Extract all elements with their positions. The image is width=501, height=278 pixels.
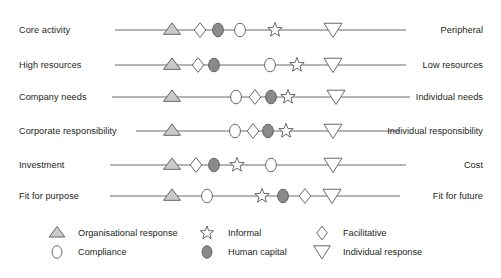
marker-ellipse-open xyxy=(231,90,242,104)
marker-diamond xyxy=(249,90,261,105)
spectrum-rows-group: Core activityPeripheralHigh resourcesLow… xyxy=(19,22,483,203)
marker-diamond xyxy=(299,189,311,204)
row-right-label: Individual needs xyxy=(416,92,484,102)
legend-item: Organisational response xyxy=(49,226,177,238)
row-left-label: Fit for purpose xyxy=(19,191,79,201)
marker-ellipse-filled xyxy=(213,23,224,37)
legend-item: Human capital xyxy=(202,246,287,259)
marker-star xyxy=(281,89,295,103)
legend-item: Compliance xyxy=(52,246,126,259)
legend-item-label: Human capital xyxy=(228,247,287,257)
spectrum-row: InvestmentCost xyxy=(19,157,483,172)
legend-item: Facilitative xyxy=(317,226,387,240)
spectrum-diagram-figure: Core activityPeripheralHigh resourcesLow… xyxy=(0,0,501,278)
marker-triangle-up xyxy=(49,226,65,237)
marker-ellipse-open xyxy=(52,246,62,259)
marker-ellipse-open xyxy=(235,23,246,37)
marker-ellipse-filled xyxy=(278,189,289,203)
legend-item-label: Facilitative xyxy=(343,228,386,238)
marker-ellipse-open xyxy=(266,158,277,172)
legend-item: Individual response xyxy=(314,246,422,259)
marker-star xyxy=(279,123,293,137)
marker-star xyxy=(290,57,304,71)
spectrum-row: Core activityPeripheral xyxy=(19,22,483,37)
marker-star xyxy=(255,188,269,202)
marker-diamond xyxy=(247,124,259,139)
marker-diamond xyxy=(190,158,202,173)
marker-ellipse-open xyxy=(265,58,276,72)
marker-triangle-up xyxy=(164,124,181,135)
marker-star xyxy=(268,22,282,36)
row-right-label: Peripheral xyxy=(441,25,483,35)
row-left-label: High resources xyxy=(19,60,82,70)
marker-ellipse-filled xyxy=(202,246,212,259)
marker-triangle-up xyxy=(164,90,181,102)
legend-item-label: Individual response xyxy=(343,247,422,257)
marker-triangle-up xyxy=(164,158,181,170)
row-right-label: Fit for future xyxy=(433,191,483,201)
marker-ellipse-filled xyxy=(263,124,274,138)
marker-star xyxy=(230,157,244,171)
row-left-label: Corporate responsibility xyxy=(19,126,117,136)
marker-ellipse-open xyxy=(230,124,241,138)
marker-ellipse-filled xyxy=(266,90,277,104)
legend-item: Informal xyxy=(200,226,261,239)
row-left-label: Company needs xyxy=(19,92,87,102)
spectrum-row: Fit for purposeFit for future xyxy=(19,188,483,203)
marker-triangle-up xyxy=(164,189,181,201)
spectrum-row: Corporate responsibilityIndividual respo… xyxy=(19,123,483,138)
row-left-label: Investment xyxy=(19,160,65,170)
marker-diamond xyxy=(192,58,204,73)
legend-item-label: Informal xyxy=(228,228,261,238)
row-left-label: Core activity xyxy=(19,25,71,35)
spectrum-row: High resourcesLow resources xyxy=(19,57,483,72)
marker-star xyxy=(200,226,213,239)
chart-legend: Organisational responseComplianceInforma… xyxy=(49,226,422,259)
spectrum-chart-canvas: Core activityPeripheralHigh resourcesLow… xyxy=(0,0,501,278)
marker-triangle-up xyxy=(164,58,181,70)
row-right-label: Individual responsibility xyxy=(387,126,483,136)
legend-item-label: Compliance xyxy=(78,247,127,257)
legend-item-label: Organisational response xyxy=(78,228,178,238)
marker-diamond xyxy=(194,23,206,38)
marker-diamond xyxy=(317,226,328,240)
marker-triangle-down xyxy=(314,246,331,259)
marker-ellipse-filled xyxy=(209,158,220,172)
marker-triangle-up xyxy=(164,23,181,34)
marker-ellipse-open xyxy=(202,189,213,203)
row-right-label: Cost xyxy=(464,160,483,170)
spectrum-row: Company needsIndividual needs xyxy=(19,89,483,104)
marker-ellipse-filled xyxy=(209,58,220,72)
row-right-label: Low resources xyxy=(423,60,484,70)
